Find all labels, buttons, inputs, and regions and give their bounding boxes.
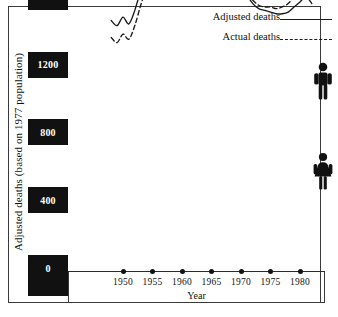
x-axis-tick-marker	[239, 269, 244, 274]
x-axis-tick-marker	[298, 269, 303, 274]
chart-legend: Adjusted deaths Actual deaths	[186, 10, 332, 50]
x-axis-tick-marker	[180, 269, 185, 274]
female-figure-icon	[313, 152, 333, 190]
x-axis-tick-marker	[150, 269, 155, 274]
y-axis-tick-label: 0	[28, 255, 68, 281]
x-axis-tick-label: 1980	[283, 277, 317, 287]
legend-item-adjusted-deaths: Adjusted deaths	[186, 10, 332, 30]
y-axis-tick-label: 800	[28, 119, 68, 145]
legend-swatch-dashed-line	[280, 39, 332, 40]
y-axis-tick-label: 400	[28, 187, 68, 213]
legend-item-actual-deaths: Actual deaths	[186, 30, 332, 50]
legend-label-adjusted-deaths: Adjusted deaths	[213, 11, 280, 22]
x-axis-tick-marker	[268, 269, 273, 274]
x-axis-tick-marker	[121, 269, 126, 274]
chart-page: Adjusted deaths (based on 1977 populatio…	[0, 0, 338, 317]
y-axis-tick-label: 1600	[28, 0, 68, 10]
male-figure-icon	[313, 62, 333, 100]
x-axis-line	[68, 271, 325, 272]
x-axis-tick-marker	[209, 269, 214, 274]
y-axis-tick-label-column: 36003200280024002000160012008004000	[28, 7, 68, 296]
y-axis-title: Adjusted deaths (based on 1977 populatio…	[12, 22, 24, 282]
x-axis-title: Year	[68, 290, 325, 301]
legend-label-actual-deaths: Actual deaths	[223, 31, 280, 42]
y-axis-tick-label: 1200	[28, 52, 68, 78]
legend-swatch-solid-line	[280, 19, 332, 20]
